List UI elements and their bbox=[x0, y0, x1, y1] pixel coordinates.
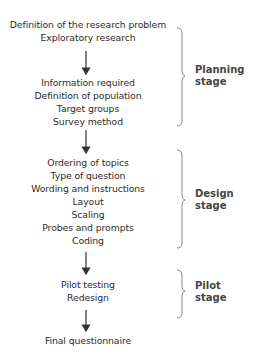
design-item: Coding bbox=[0, 235, 176, 247]
design-item: Layout bbox=[0, 196, 176, 208]
planning-item: Target groups bbox=[0, 103, 176, 115]
design-item: Scaling bbox=[0, 209, 176, 221]
planning-stage-label: Planning stage bbox=[195, 64, 244, 88]
planning-item: Definition of the research problem bbox=[0, 19, 176, 31]
planning-item: Definition of population bbox=[0, 90, 176, 102]
pilot-item: Redesign bbox=[0, 292, 176, 304]
planning-item: Exploratory research bbox=[0, 32, 176, 44]
final-item: Final questionnaire bbox=[0, 335, 176, 347]
design-item: Ordering of topics bbox=[0, 157, 176, 169]
design-item: Wording and instructions bbox=[0, 183, 176, 195]
design-stage-label: Design stage bbox=[195, 188, 234, 212]
pilot-item: Pilot testing bbox=[0, 279, 176, 291]
planning-brace bbox=[177, 28, 185, 126]
design-brace bbox=[177, 150, 185, 248]
pilot-stage-label: Pilot stage bbox=[195, 280, 226, 304]
planning-item: Information required bbox=[0, 77, 176, 89]
planning-item: Survey method bbox=[0, 116, 176, 128]
pilot-brace bbox=[177, 270, 185, 318]
design-item: Type of question bbox=[0, 170, 176, 182]
design-item: Probes and prompts bbox=[0, 222, 176, 234]
